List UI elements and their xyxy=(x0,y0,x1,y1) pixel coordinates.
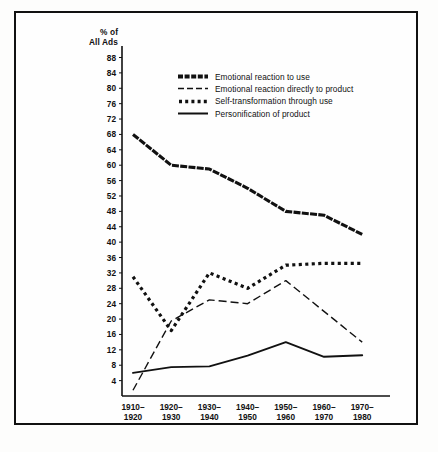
series-line-0 xyxy=(133,134,362,234)
chart-plot-area xyxy=(0,0,438,452)
series-line-3 xyxy=(133,342,362,373)
series-line-1 xyxy=(133,281,362,391)
figure-caption xyxy=(14,432,418,450)
figure-container: % of All Ads 888480767268646056524844403… xyxy=(0,0,438,452)
series-line-2 xyxy=(133,263,362,330)
